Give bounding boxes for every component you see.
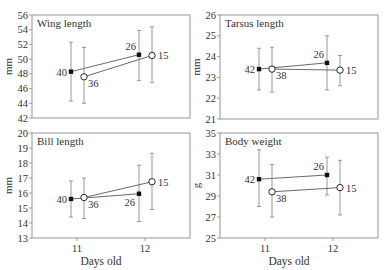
open-marker — [337, 67, 343, 73]
panel-title: Body weight — [225, 135, 282, 147]
sample-size-label: 26 — [126, 41, 137, 52]
y-tick-label: 21 — [206, 114, 217, 125]
y-tick-label: 25 — [206, 233, 217, 244]
series-line — [272, 188, 340, 192]
y-axis-label: g — [190, 182, 202, 188]
y-tick-label: 27 — [206, 212, 217, 223]
y-tick-label: 54 — [18, 24, 29, 35]
sample-size-label: 15 — [158, 50, 169, 61]
sample-size-label: 38 — [276, 70, 287, 81]
y-axis-label: mm — [2, 58, 14, 76]
y-tick-label: 52 — [18, 39, 29, 50]
x-axis-label: Days old — [268, 255, 309, 268]
sample-size-label: 26 — [314, 161, 325, 172]
panel-title: Tarsus length — [225, 17, 284, 29]
open-marker — [269, 189, 275, 195]
y-tick-label: 22 — [206, 93, 217, 104]
open-marker — [337, 184, 343, 190]
filled-marker — [325, 173, 329, 177]
sample-size-label: 40 — [57, 67, 68, 78]
y-tick-label: 20 — [18, 128, 29, 139]
series-line — [71, 55, 139, 72]
panel-title: Wing length — [37, 17, 92, 29]
y-tick-label: 56 — [18, 10, 29, 21]
y-tick-label: 50 — [18, 54, 29, 65]
y-tick-label: 31 — [206, 170, 217, 181]
y-tick-label: 33 — [206, 149, 217, 160]
panel-title: Bill length — [37, 135, 84, 147]
open-marker — [81, 194, 87, 200]
open-marker — [149, 52, 155, 58]
y-tick-label: 29 — [206, 191, 217, 202]
panel-tarsus-length: 212223242526mmTarsus length42263815 — [190, 10, 378, 125]
series-line — [259, 175, 327, 179]
filled-marker — [325, 61, 329, 65]
sample-size-label: 38 — [276, 193, 287, 204]
y-tick-label: 46 — [18, 83, 29, 94]
open-marker — [149, 179, 155, 185]
y-tick-label: 24 — [206, 51, 217, 62]
sample-size-label: 26 — [314, 49, 325, 60]
sample-size-label: 36 — [88, 199, 99, 210]
y-tick-label: 14 — [18, 218, 29, 229]
filled-marker — [137, 53, 141, 57]
x-tick-label: 11 — [260, 243, 270, 254]
y-tick-label: 26 — [206, 10, 217, 21]
y-tick-label: 17 — [18, 173, 29, 184]
panel-wing-length: 4244464850525456mmWing length40263615 — [2, 10, 190, 124]
sample-size-label: 42 — [245, 64, 256, 75]
y-tick-label: 35 — [206, 128, 217, 139]
y-tick-label: 15 — [18, 203, 29, 214]
x-tick-label: 11 — [72, 243, 82, 254]
open-marker — [269, 66, 275, 72]
filled-marker — [137, 192, 141, 196]
filled-marker — [257, 67, 261, 71]
sample-size-label: 15 — [346, 65, 357, 76]
panel-bill-length: 1314151617181920mmBill length1112Days ol… — [2, 128, 190, 269]
figure: 4244464850525456mmWing length40263615 21… — [0, 0, 385, 270]
y-tick-label: 23 — [206, 72, 217, 83]
x-axis-label: Days old — [80, 255, 121, 268]
y-tick-label: 13 — [18, 233, 29, 244]
y-tick-label: 25 — [206, 30, 217, 41]
y-tick-label: 19 — [18, 143, 29, 154]
y-tick-label: 18 — [18, 158, 29, 169]
sample-size-label: 42 — [245, 174, 256, 185]
y-axis-label: mm — [2, 177, 14, 195]
sample-size-label: 26 — [125, 197, 136, 208]
sample-size-label: 15 — [346, 183, 357, 194]
panel-body-weight: 252729313335gBody weight1112Days old4226… — [190, 128, 378, 269]
y-axis-label: mm — [190, 58, 202, 76]
y-tick-label: 42 — [18, 113, 29, 124]
filled-marker — [69, 197, 73, 201]
filled-marker — [69, 69, 73, 73]
x-tick-label: 12 — [328, 243, 339, 254]
open-marker — [81, 74, 87, 80]
sample-size-label: 36 — [88, 78, 99, 89]
y-tick-label: 44 — [18, 98, 29, 109]
sample-size-label: 40 — [57, 194, 68, 205]
filled-marker — [257, 177, 261, 181]
sample-size-label: 15 — [158, 177, 169, 188]
x-tick-label: 12 — [140, 243, 151, 254]
y-tick-label: 16 — [18, 188, 29, 199]
y-tick-label: 48 — [18, 68, 29, 79]
